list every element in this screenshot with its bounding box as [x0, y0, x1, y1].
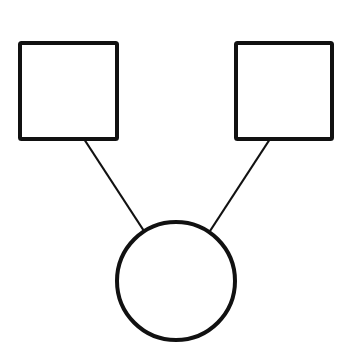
edge-left-to-circle [84, 139, 144, 231]
left-square-node [20, 43, 117, 139]
right-square-node [236, 43, 332, 139]
circle-node [117, 222, 235, 340]
edge-right-to-circle [210, 139, 270, 231]
pedigree-diagram [0, 0, 345, 361]
